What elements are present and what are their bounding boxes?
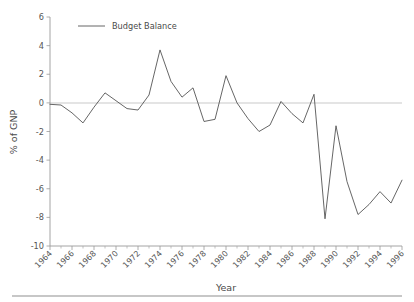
chart-figure: 6420-2-4-6-8-10 % of GNP 196419661968197…: [0, 0, 414, 302]
y-tick-label: -4: [36, 155, 44, 165]
y-tick-label: -6: [36, 184, 44, 194]
y-axis-title: % of GNP: [8, 110, 19, 155]
y-tick-label: -10: [31, 241, 44, 251]
x-axis-title: Year: [215, 282, 236, 293]
budget-balance-line-chart: 6420-2-4-6-8-10 % of GNP 196419661968197…: [0, 0, 414, 302]
y-tick-label: 0: [39, 98, 44, 108]
y-tick-label: -8: [36, 212, 44, 222]
y-tick-label: 6: [39, 12, 44, 22]
y-tick-label: 2: [39, 69, 44, 79]
y-tick-label: 4: [39, 41, 44, 51]
legend-label-budget-balance: Budget Balance: [112, 21, 177, 31]
y-tick-label: -2: [36, 127, 44, 137]
